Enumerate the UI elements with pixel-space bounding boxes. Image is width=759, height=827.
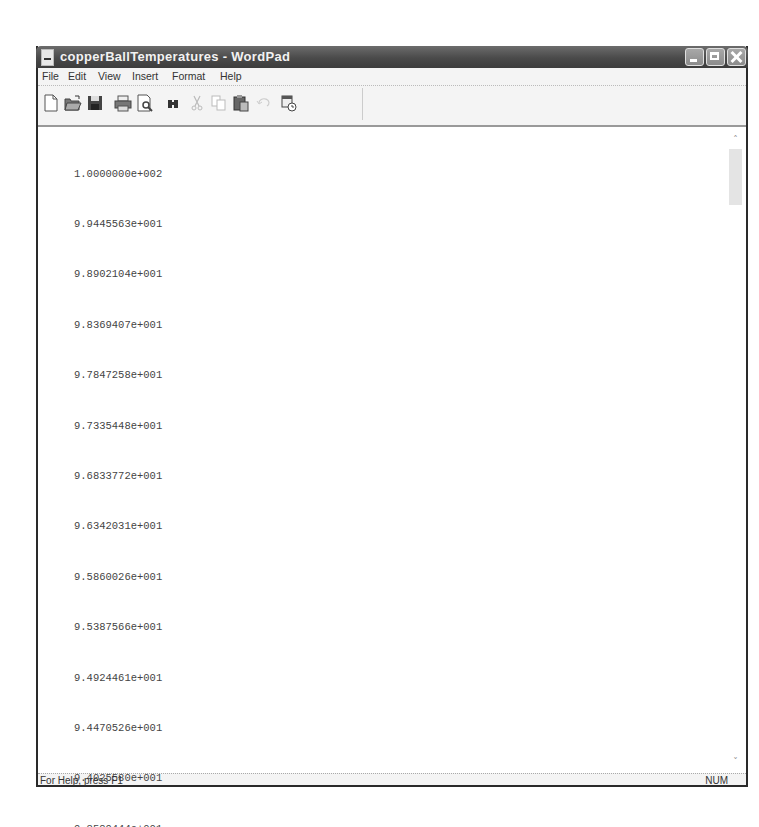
- menu-insert[interactable]: Insert: [132, 70, 158, 82]
- text-line: 1.0000000e+002: [74, 166, 162, 183]
- wordpad-app-icon[interactable]: [41, 49, 54, 66]
- text-line: 9.3589444e+001: [74, 821, 162, 827]
- text-line: 9.8369407e+001: [74, 317, 162, 334]
- status-help-text: For Help, press F1: [40, 775, 123, 786]
- vertical-scrollbar[interactable]: ˄ ˅: [727, 127, 744, 773]
- new-icon[interactable]: [42, 94, 60, 112]
- open-icon[interactable]: [64, 94, 82, 112]
- toolbar-separator: [362, 88, 363, 120]
- window-title: copperBallTemperatures - WordPad: [60, 49, 290, 64]
- date-time-icon[interactable]: [280, 94, 298, 112]
- menu-file[interactable]: File: [42, 70, 59, 82]
- status-bar: For Help, press F1 NUM: [38, 773, 746, 787]
- close-button[interactable]: [727, 48, 746, 66]
- menu-view[interactable]: View: [98, 70, 121, 82]
- document-text[interactable]: 1.0000000e+002 9.9445563e+001 9.8902104e…: [74, 132, 162, 827]
- wordpad-window: copperBallTemperatures - WordPad File Ed…: [36, 46, 748, 787]
- menu-edit[interactable]: Edit: [68, 70, 86, 82]
- scroll-up-arrow-icon[interactable]: ˄: [729, 133, 742, 145]
- menu-format[interactable]: Format: [172, 70, 205, 82]
- text-line: 9.9445563e+001: [74, 216, 162, 233]
- text-line: 9.7335448e+001: [74, 418, 162, 435]
- menu-help[interactable]: Help: [220, 70, 242, 82]
- document-area[interactable]: 1.0000000e+002 9.9445563e+001 9.8902104e…: [38, 127, 746, 773]
- cut-icon[interactable]: [188, 94, 206, 112]
- toolbar: [38, 85, 746, 127]
- text-line: 9.6833772e+001: [74, 468, 162, 485]
- undo-icon[interactable]: [254, 94, 272, 112]
- scrollbar-thumb[interactable]: [729, 149, 742, 205]
- save-icon[interactable]: [86, 94, 104, 112]
- paste-icon[interactable]: [232, 94, 250, 112]
- text-line: 9.6342031e+001: [74, 518, 162, 535]
- num-lock-indicator: NUM: [705, 775, 728, 786]
- print-preview-icon[interactable]: [136, 94, 154, 112]
- find-icon[interactable]: [164, 94, 182, 112]
- print-icon[interactable]: [114, 94, 132, 112]
- copy-icon[interactable]: [210, 94, 228, 112]
- text-line: 9.4924461e+001: [74, 670, 162, 687]
- text-line: 9.5387566e+001: [74, 619, 162, 636]
- minimize-button[interactable]: [685, 48, 704, 66]
- scroll-down-arrow-icon[interactable]: ˅: [729, 755, 742, 767]
- text-line: 9.5860026e+001: [74, 569, 162, 586]
- maximize-button[interactable]: [706, 48, 725, 66]
- text-line: 9.4470526e+001: [74, 720, 162, 737]
- text-line: 9.7847258e+001: [74, 367, 162, 384]
- title-bar[interactable]: copperBallTemperatures - WordPad: [36, 46, 748, 68]
- menu-bar: File Edit View Insert Format Help: [38, 68, 746, 85]
- text-line: 9.8902104e+001: [74, 266, 162, 283]
